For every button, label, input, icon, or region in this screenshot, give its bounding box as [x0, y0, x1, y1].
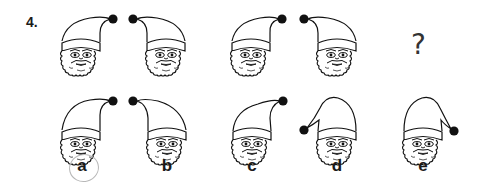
option-label-c[interactable]: c — [242, 156, 262, 176]
option-c-figure[interactable] — [232, 96, 288, 165]
option-e-figure[interactable] — [403, 97, 459, 165]
hat-icon — [62, 99, 110, 131]
gnome-seq-3 — [231, 14, 287, 76]
gnome-seq-2 — [128, 14, 185, 76]
gnome-seq-4 — [299, 14, 356, 76]
hat-icon — [137, 100, 186, 132]
pompom-icon — [128, 96, 137, 105]
option-b-figure[interactable] — [128, 96, 186, 165]
option-label-e[interactable]: e — [413, 156, 433, 176]
option-label-a[interactable]: a — [72, 156, 92, 176]
pompom-icon — [277, 14, 286, 23]
pompom-icon — [299, 125, 308, 134]
hat-icon — [233, 100, 280, 131]
option-label-d[interactable]: d — [327, 156, 347, 176]
gnome-seq-1 — [61, 14, 118, 76]
hat-icon — [308, 17, 356, 42]
missing-figure-question-mark: ? — [411, 28, 426, 61]
pompom-icon — [128, 14, 137, 23]
pompom-icon — [278, 96, 287, 105]
hat-icon — [307, 97, 356, 131]
pompom-icon — [299, 14, 308, 23]
option-label-b[interactable]: b — [157, 156, 177, 176]
pompom-icon — [108, 96, 117, 105]
hat-icon — [137, 17, 185, 42]
hat-icon — [62, 17, 110, 42]
hat-icon — [232, 17, 279, 42]
pompom-icon — [449, 126, 458, 135]
pompom-icon — [108, 14, 117, 23]
hat-icon — [404, 97, 451, 131]
option-d-figure[interactable] — [299, 97, 356, 165]
